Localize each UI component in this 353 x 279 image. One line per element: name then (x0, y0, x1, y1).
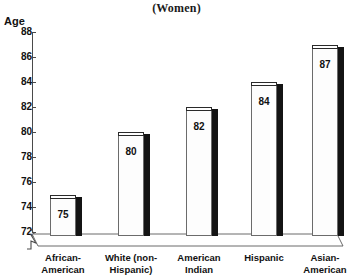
x-axis-label: African-American (27, 252, 99, 276)
x-axis-label-line: American (27, 264, 99, 276)
y-tick-mark (32, 82, 36, 83)
bar: 75 (50, 195, 76, 237)
bar-side-shadow (76, 197, 82, 237)
y-tick-label: 74 (6, 201, 32, 212)
x-axis-label: White (non-Hispanic) (95, 252, 167, 276)
bar-side-shadow (212, 109, 218, 236)
bar-value-label: 87 (312, 59, 338, 70)
y-tick-mark (32, 157, 36, 158)
x-axis-label-line: White (non- (95, 252, 167, 264)
y-tick-label: 82 (6, 101, 32, 112)
x-axis-label-line: American (289, 264, 353, 276)
bar-chart: (Women) Age 888684828078767472 758082848… (0, 0, 353, 279)
bar-side-shadow (338, 47, 344, 237)
bar-top-cap (118, 132, 144, 136)
bar: 84 (251, 82, 277, 236)
plot-area: 888684828078767472 7580828487 African-Am… (0, 0, 353, 279)
y-tick-label: 76 (6, 176, 32, 187)
bar: 82 (186, 107, 212, 236)
y-tick-label: 86 (6, 51, 32, 62)
x-axis-label-line: Hispanic) (95, 264, 167, 276)
y-tick-mark (32, 132, 36, 133)
bar-side-shadow (144, 134, 150, 236)
y-tick-mark (32, 107, 36, 108)
bar-face (251, 86, 277, 236)
y-tick-label: 78 (6, 151, 32, 162)
bar-top-cap (186, 107, 212, 111)
bar: 80 (118, 132, 144, 236)
bar-top-cap (312, 45, 338, 49)
y-tick-mark (32, 207, 36, 208)
y-tick-label: 88 (6, 26, 32, 37)
x-axis-label-line: Asian- (289, 252, 353, 264)
bar-value-label: 75 (50, 209, 76, 220)
x-axis-label: Asian-American (289, 252, 353, 276)
y-tick-mark (32, 32, 36, 33)
bar-top-cap (251, 82, 277, 86)
y-tick-label: 84 (6, 76, 32, 87)
x-axis-label: AmericanIndian (163, 252, 235, 276)
x-axis-label-line: American (163, 252, 235, 264)
y-tick-label: 80 (6, 126, 32, 137)
y-tick-mark (32, 57, 36, 58)
bar-top-cap (50, 195, 76, 199)
bar-side-shadow (277, 84, 283, 236)
bar-value-label: 80 (118, 146, 144, 157)
bar-value-label: 84 (251, 96, 277, 107)
x-axis-label-line: African- (27, 252, 99, 264)
x-axis-label-line: Indian (163, 264, 235, 276)
bar-value-label: 82 (186, 121, 212, 132)
bar-face (312, 49, 338, 237)
y-tick-mark (32, 182, 36, 183)
bar: 87 (312, 45, 338, 237)
